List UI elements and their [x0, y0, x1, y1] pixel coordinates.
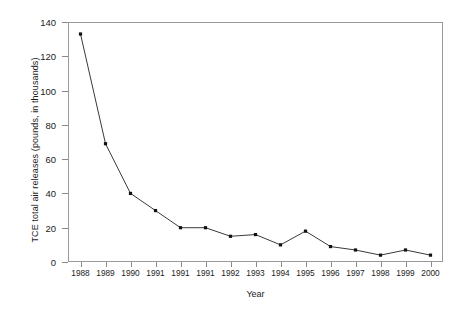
y-axis-tick-label: 80 — [0, 119, 56, 130]
y-axis-tick-label: 40 — [0, 188, 56, 199]
x-axis-tick — [306, 262, 307, 267]
plot-area — [68, 22, 443, 262]
y-axis-tick — [62, 56, 68, 57]
y-axis-tick-label: 0 — [0, 257, 56, 268]
x-axis-tick — [431, 262, 432, 267]
x-axis-tick — [281, 262, 282, 267]
y-axis-tick-label: 20 — [0, 222, 56, 233]
y-axis-tick — [62, 22, 68, 23]
x-axis-tick — [131, 262, 132, 267]
x-axis-tick — [256, 262, 257, 267]
x-axis-title: Year — [68, 289, 443, 299]
x-axis-tick — [356, 262, 357, 267]
y-axis-tick — [62, 262, 68, 263]
x-axis-tick — [156, 262, 157, 267]
y-axis-tick-label: 140 — [0, 17, 56, 28]
x-axis-tick — [81, 262, 82, 267]
y-axis-tick — [62, 125, 68, 126]
y-axis-tick — [62, 193, 68, 194]
y-axis-tick — [62, 159, 68, 160]
x-axis-tick — [231, 262, 232, 267]
y-axis-title: TCE total air releases (pounds, in thous… — [30, 30, 40, 270]
x-axis-tick-label: 2000 — [411, 268, 451, 278]
x-axis-tick — [181, 262, 182, 267]
x-axis-tick — [206, 262, 207, 267]
x-axis-tick — [106, 262, 107, 267]
y-axis-tick-label: 120 — [0, 51, 56, 62]
y-axis-tick-label: 60 — [0, 154, 56, 165]
x-axis-tick — [331, 262, 332, 267]
chart-container: TCE total air releases (pounds, in thous… — [0, 0, 468, 311]
y-axis-tick — [62, 91, 68, 92]
y-axis-tick-label: 100 — [0, 85, 56, 96]
y-axis-tick — [62, 228, 68, 229]
x-axis-tick — [381, 262, 382, 267]
x-axis-tick — [406, 262, 407, 267]
